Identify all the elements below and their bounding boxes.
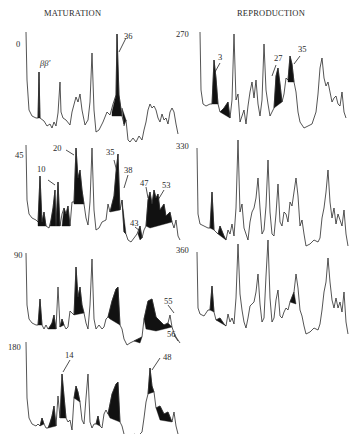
panel-reproduction-330: 330 <box>190 138 363 238</box>
trace-chart <box>0 130 190 240</box>
panel-maturation-180: 180 14 48 <box>0 338 190 434</box>
trace-chart <box>0 0 190 130</box>
panel-maturation-45: 45 10 20 35 38 43 47 53 <box>0 130 190 240</box>
time-label: 330 <box>176 141 189 151</box>
trace-chart <box>190 0 363 130</box>
panel-reproduction-360: 360 <box>190 238 363 338</box>
time-label: 270 <box>176 29 189 39</box>
panel-maturation-90: 90 55 56 <box>0 245 190 345</box>
trace-chart <box>190 138 363 238</box>
panel-maturation-0: 0 ββ' 36 <box>0 0 190 120</box>
trace-chart <box>0 338 190 434</box>
panel-reproduction-270: 270 3 27 35 <box>190 0 363 130</box>
time-label: 360 <box>176 245 189 255</box>
trace-chart <box>190 238 363 338</box>
trace-chart <box>0 245 190 345</box>
